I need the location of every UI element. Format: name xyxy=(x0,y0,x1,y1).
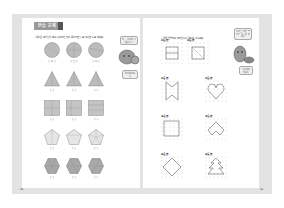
pentagon-shape-icon xyxy=(44,129,60,145)
circle-shape-icon xyxy=(66,42,82,58)
answer-blank[interactable]: ( × ) xyxy=(88,59,104,63)
answer-blank[interactable]: ( ○ ) xyxy=(66,59,82,63)
dot-grid-tree[interactable] xyxy=(205,156,227,178)
answer-blank[interactable]: ( ) xyxy=(88,88,104,92)
circle-shape-icon xyxy=(88,42,104,58)
answer-blank[interactable]: ( ) xyxy=(44,117,60,121)
answer-blank[interactable]: ( ) xyxy=(44,175,60,179)
shape-row-squares: ( ) ( ) ( ) xyxy=(44,100,124,122)
answer-blank[interactable]: ( ) xyxy=(66,146,82,150)
dot-grid-diamond[interactable] xyxy=(161,156,183,178)
answer-blank[interactable]: ( ) xyxy=(88,146,104,150)
left-page: 연습 문제 • 똑같은 모양인지 보고, 나뉘어진 칸이 똑같으면 ○표, 아니… xyxy=(22,18,140,188)
tab-corner-icon xyxy=(58,22,63,30)
dot-grid-square[interactable] xyxy=(161,118,183,140)
square-shape-icon xyxy=(66,100,82,116)
hexagon-shape-icon xyxy=(88,158,104,174)
section-tab: 연습 문제 xyxy=(34,22,60,30)
hexagon-shape-icon xyxy=(44,158,60,174)
page-number-left: 48 xyxy=(20,188,23,191)
workbook-spread: 연습 문제 • 똑같은 모양인지 보고, 나뉘어진 칸이 똑같으면 ○표, 아니… xyxy=(12,14,272,194)
dot-grid-arrow[interactable] xyxy=(205,118,227,140)
dot-grid-square-split[interactable] xyxy=(161,42,183,64)
dot-grid-ribbon[interactable] xyxy=(161,80,183,102)
square-shape-icon xyxy=(44,100,60,116)
left-instruction: • 똑같은 모양인지 보고, 나뉘어진 칸이 똑같으면 ○표, 아니면 ×표 하… xyxy=(34,35,103,39)
answer-blank[interactable]: ( × ) xyxy=(44,59,60,63)
answer-blank[interactable]: ( ) xyxy=(44,88,60,92)
circle-shape-icon xyxy=(44,42,60,58)
dot-grid-heart[interactable] xyxy=(205,80,227,102)
shape-row-pentagons: ( ) ( ) ( ) xyxy=(44,129,124,151)
shape-row-circles: ( × ) ( ○ ) ( × ) xyxy=(44,42,124,64)
answer-blank[interactable]: ( ) xyxy=(66,117,82,121)
dot-grid-square-x[interactable] xyxy=(187,42,209,64)
answer-blank[interactable]: ( ) xyxy=(88,175,104,179)
pentagon-shape-icon xyxy=(66,129,82,145)
square-shape-icon xyxy=(88,100,104,116)
answer-blank[interactable]: ( ) xyxy=(66,175,82,179)
answer-blank[interactable]: ( ) xyxy=(88,117,104,121)
shape-row-triangles: ( ) ( ) ( ) xyxy=(44,71,124,93)
speech-bubble-top: 똑같은 모양 크기로 나누어 보세요 xyxy=(234,28,252,40)
speech-bubble-bottom: 잘 살펴보세요! xyxy=(122,70,138,79)
character-mascot-icon xyxy=(231,45,255,65)
speech-bubble-bottom: 점을 이어 보세요 xyxy=(239,66,253,75)
right-page: • 점을 연결하여 주어진 수로 똑같이 나누세요. 똑같은 모양 크기로 나누… xyxy=(143,18,259,188)
pentagon-shape-icon xyxy=(88,129,104,145)
triangle-shape-icon xyxy=(66,71,82,87)
hexagon-shape-icon xyxy=(66,158,82,174)
triangle-shape-icon xyxy=(88,71,104,87)
shape-row-hexagons: ( ) ( ) ( ) xyxy=(44,158,124,180)
triangle-shape-icon xyxy=(44,71,60,87)
answer-blank[interactable]: ( ) xyxy=(44,146,60,150)
answer-blank[interactable]: ( ) xyxy=(66,88,82,92)
page-number-right: 49 xyxy=(260,188,263,191)
